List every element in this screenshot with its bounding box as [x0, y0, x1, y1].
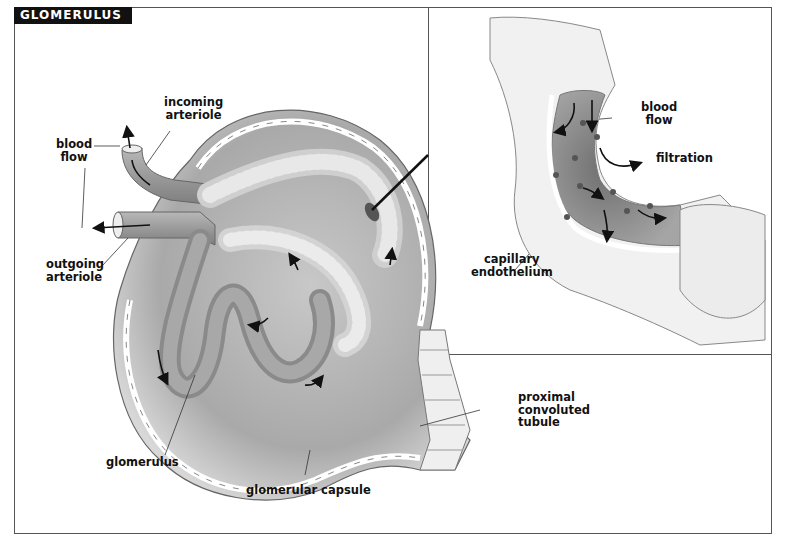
label-proximal-convoluted-tubule: proximal convoluted tubule [518, 391, 590, 429]
label-filtration: filtration [656, 152, 713, 165]
label-outgoing-arteriole: outgoing arteriole [46, 258, 104, 283]
label-glomerular-capsule: glomerular capsule [246, 484, 371, 497]
label-blood-flow: blood flow [56, 138, 92, 163]
label-incoming-arteriole: incoming arteriole [164, 96, 223, 121]
capillary-inset-illustration [490, 17, 765, 345]
label-glomerulus: glomerulus [106, 456, 179, 469]
label-inset-blood-flow: blood flow [641, 101, 677, 126]
label-capillary-endothelium: capillary endothelium [471, 253, 553, 278]
